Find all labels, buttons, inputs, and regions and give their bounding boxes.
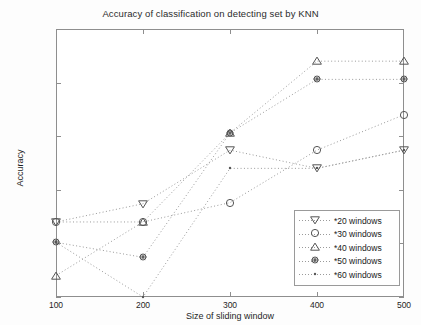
y-axis-tick-mark xyxy=(399,29,404,30)
x-axis-tick-label: 400 xyxy=(310,300,324,310)
y-axis-label: Accuracy xyxy=(15,118,25,218)
x-axis-tick-mark xyxy=(317,292,318,297)
y-axis-tick-mark xyxy=(56,83,61,84)
x-axis-tick-label: 500 xyxy=(397,300,411,310)
y-axis-tick-mark xyxy=(399,136,404,137)
y-axis-tick-mark xyxy=(56,243,61,244)
chart-title: Accuracy of classification on detecting … xyxy=(0,8,421,19)
y-axis-tick-mark xyxy=(56,136,61,137)
x-axis-tick-mark xyxy=(143,29,144,34)
legend-item-label: *50 windows xyxy=(332,256,382,266)
y-axis-tick-mark xyxy=(56,190,61,191)
x-axis-tick-label: 100 xyxy=(49,300,63,310)
legend-item[interactable]: *60 windows xyxy=(295,268,399,282)
x-axis-tick-mark xyxy=(317,29,318,34)
x-axis-tick-label: 300 xyxy=(223,300,237,310)
legend-item-label: *60 windows xyxy=(332,270,382,280)
x-axis-tick-mark xyxy=(230,29,231,34)
chart-legend[interactable]: *20 windows*30 windows*40 windows*50 win… xyxy=(294,210,400,286)
legend-item-label: *30 windows xyxy=(332,229,382,239)
y-axis-tick-mark xyxy=(399,190,404,191)
x-axis-label: Size of sliding window xyxy=(56,311,404,321)
chart-figure: Accuracy of classification on detecting … xyxy=(0,0,421,325)
legend-item-label: *40 windows xyxy=(332,243,382,253)
x-axis-tick-mark xyxy=(230,292,231,297)
y-axis-tick-mark xyxy=(56,297,61,298)
y-axis-tick-mark xyxy=(56,29,61,30)
y-axis-tick-mark xyxy=(399,83,404,84)
legend-dot-icon xyxy=(309,266,321,284)
legend-marker-sample xyxy=(298,269,332,281)
x-axis-tick-label: 200 xyxy=(136,300,150,310)
y-axis-tick-mark xyxy=(399,297,404,298)
x-axis-tick-mark xyxy=(143,292,144,297)
legend-item-label: *20 windows xyxy=(332,216,382,226)
